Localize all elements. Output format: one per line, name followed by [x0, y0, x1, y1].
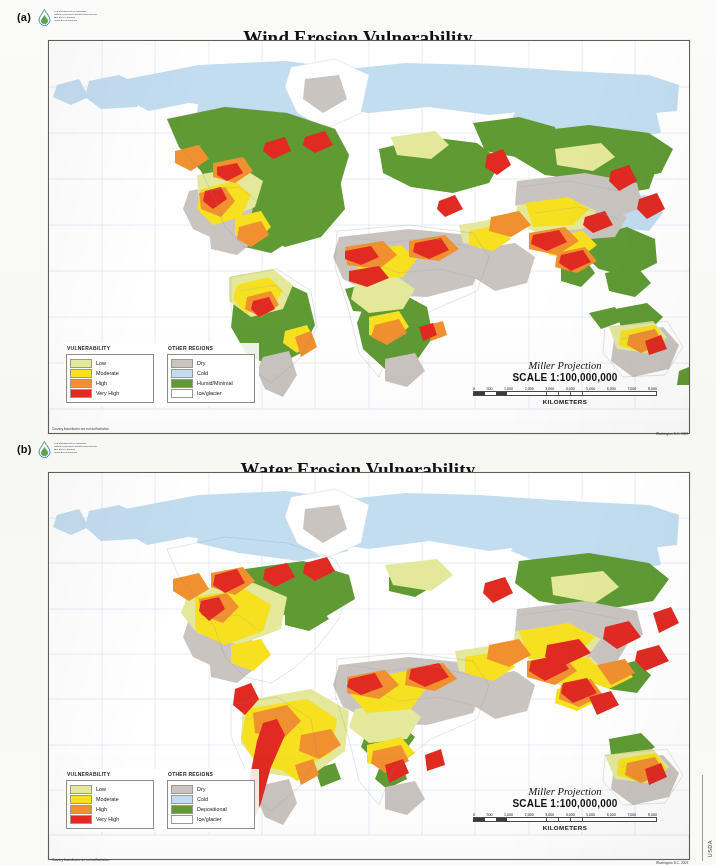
scale-ratio-a: SCALE 1:100,000,000 [471, 372, 659, 383]
legend-item: Ice/glacier [171, 389, 249, 398]
legend-item: Low [70, 785, 148, 794]
footnote-place-date-b: Washington D.C. 2003 [656, 861, 688, 865]
legend-label-dry: Dry [197, 360, 205, 366]
legend-item: Low [70, 359, 148, 368]
legend-header-vulnerability-a: VULNERABILITY [67, 345, 154, 351]
legend-item: Depositional [171, 805, 249, 814]
legend-label-low: Low [96, 786, 106, 792]
panel-wind-erosion: (a) U.S. Department of Agriculture Natur… [0, 0, 716, 440]
map-scale-block-b: Miller Projection SCALE 1:100,000,000 0 … [471, 786, 659, 831]
legend-item: Very High [70, 815, 148, 824]
legend-box-vulnerability-b: Low Moderate High Very High [66, 780, 154, 830]
legend-box-other-a: Dry Cold Humid/Minimal Ice/glacier [167, 354, 255, 404]
agency-line-4: World Soil Resources [54, 20, 97, 23]
legend-label-cold: Cold [197, 370, 208, 376]
scale-bar-b [473, 817, 657, 822]
agency-logo-block: U.S. Department of Agriculture Natural R… [38, 9, 97, 26]
world-map-water-erosion: VULNERABILITY Low Moderate High [48, 472, 690, 860]
legend-item: Moderate [70, 369, 148, 378]
legend-column-vulnerability-a: VULNERABILITY Low Moderate High [66, 345, 154, 404]
legend-label-depositional: Depositional [197, 806, 227, 812]
agency-line-4: World Soil Resources [54, 452, 97, 455]
map-scale-block-a: Miller Projection SCALE 1:100,000,000 0 … [471, 360, 659, 405]
legend-label-high: High [96, 806, 107, 812]
side-rule [702, 775, 703, 861]
legend-column-other-a: OTHER REGIONS Dry Cold Humid/Minimal [167, 345, 255, 404]
legend-swatch-ice-glacier [171, 815, 193, 824]
legend-label-ice-glacier: Ice/glacier [197, 816, 222, 822]
legend-item: Ice/glacier [171, 815, 249, 824]
legend-item: Moderate [70, 795, 148, 804]
legend-item: Dry [171, 359, 249, 368]
agency-logo-block-b: U.S. Department of Agriculture Natural R… [38, 441, 97, 458]
legend-label-high: High [96, 380, 107, 386]
legend-label-dry: Dry [197, 786, 205, 792]
legend-swatch-high [70, 805, 92, 814]
scale-unit-b: KILOMETERS [471, 824, 659, 831]
usda-nrcs-water-drop-logo-icon [38, 9, 51, 26]
footnote-boundaries-a: Country boundaries are not authoritative… [52, 427, 110, 431]
side-credit-usda: USDA [707, 840, 713, 857]
legend-box-other-b: Dry Cold Depositional Ice/glacier [167, 780, 255, 830]
legend-item: Very High [70, 389, 148, 398]
legend-swatch-dry [171, 785, 193, 794]
legend-label-humid-minimal: Humid/Minimal [197, 380, 233, 386]
legend-swatch-very-high [70, 389, 92, 398]
legend-header-other-b: OTHER REGIONS [168, 771, 255, 777]
legend-swatch-depositional [171, 805, 193, 814]
legend-item: Humid/Minimal [171, 379, 249, 388]
legend-column-vulnerability-b: VULNERABILITY Low Moderate High [66, 771, 154, 830]
legend-item: High [70, 379, 148, 388]
legend-column-other-b: OTHER REGIONS Dry Cold Depositional [167, 771, 255, 830]
legend-swatch-cold [171, 369, 193, 378]
scale-unit-a: KILOMETERS [471, 398, 659, 405]
legend-swatch-low [70, 359, 92, 368]
legend-swatch-high [70, 379, 92, 388]
scale-bar-a [473, 391, 657, 396]
legend-swatch-moderate [70, 369, 92, 378]
footnote-place-date-a: Washington D.C. 2003 [656, 432, 688, 436]
legend-label-moderate: Moderate [96, 796, 119, 802]
legend-box-vulnerability-a: Low Moderate High Very High [66, 354, 154, 404]
agency-name-b: U.S. Department of Agriculture Natural R… [54, 441, 97, 455]
legend-swatch-very-high [70, 815, 92, 824]
panel-water-erosion: (b) U.S. Department of Agriculture Natur… [0, 437, 716, 865]
projection-label-a: Miller Projection [471, 360, 659, 371]
legend-label-very-high: Very High [96, 390, 119, 396]
legend-item: High [70, 805, 148, 814]
world-map-wind-erosion: VULNERABILITY Low Moderate High [48, 40, 690, 434]
legend-item: Cold [171, 795, 249, 804]
figure-page: (a) U.S. Department of Agriculture Natur… [0, 0, 716, 865]
projection-label-b: Miller Projection [471, 786, 659, 797]
legend-label-ice-glacier: Ice/glacier [197, 390, 222, 396]
map-legend-b: VULNERABILITY Low Moderate High [64, 769, 259, 833]
legend-swatch-dry [171, 359, 193, 368]
legend-label-very-high: Very High [96, 816, 119, 822]
map-legend-a: VULNERABILITY Low Moderate High [64, 343, 259, 407]
agency-name: U.S. Department of Agriculture Natural R… [54, 9, 97, 23]
legend-swatch-cold [171, 795, 193, 804]
legend-swatch-low [70, 785, 92, 794]
panel-letter-b: (b) [17, 443, 32, 455]
panel-letter-a: (a) [17, 11, 31, 23]
legend-label-cold: Cold [197, 796, 208, 802]
footnote-boundaries-b: Country boundaries are not authoritative… [52, 858, 110, 862]
legend-header-other-a: OTHER REGIONS [168, 345, 255, 351]
legend-item: Cold [171, 369, 249, 378]
legend-swatch-moderate [70, 795, 92, 804]
legend-header-vulnerability-b: VULNERABILITY [67, 771, 154, 777]
usda-nrcs-water-drop-logo-icon [38, 441, 51, 458]
legend-label-low: Low [96, 360, 106, 366]
legend-label-moderate: Moderate [96, 370, 119, 376]
scale-ratio-b: SCALE 1:100,000,000 [471, 798, 659, 809]
legend-swatch-ice-glacier [171, 389, 193, 398]
legend-item: Dry [171, 785, 249, 794]
legend-swatch-humid-minimal [171, 379, 193, 388]
